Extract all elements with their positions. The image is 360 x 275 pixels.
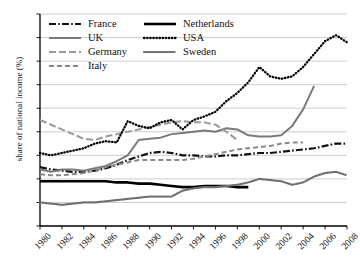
legend-item-germany[interactable]: Germany [48, 47, 143, 58]
legend-item-italy[interactable]: Italy [48, 61, 143, 72]
legend-label: Italy [88, 61, 107, 72]
legend-row: Italy [48, 59, 238, 73]
legend-swatch [143, 19, 177, 29]
legend-row: FranceNetherlands [48, 17, 238, 31]
legend-item-netherlands[interactable]: Netherlands [143, 19, 238, 30]
legend-item-uk[interactable]: UK [48, 33, 143, 44]
legend-label: Sweden [183, 47, 216, 58]
legend-item-usa[interactable]: USA [143, 33, 238, 44]
legend-swatch [143, 47, 177, 57]
y-axis-title: share of national income (%) [14, 24, 24, 194]
legend-swatch [48, 19, 82, 29]
legend-item-sweden[interactable]: Sweden [143, 47, 238, 58]
legend-swatch [48, 61, 82, 71]
legend-label: France [88, 19, 117, 30]
legend-swatch [48, 33, 82, 43]
legend-label: UK [88, 33, 103, 44]
chart-legend: FranceNetherlandsUKUSAGermanySwedenItaly [48, 17, 238, 73]
legend-row: UKUSA [48, 31, 238, 45]
legend-label: USA [183, 33, 204, 44]
legend-swatch [143, 33, 177, 43]
legend-row: GermanySweden [48, 45, 238, 59]
legend-label: Germany [88, 47, 127, 58]
legend-item-france[interactable]: France [48, 19, 143, 30]
legend-swatch [48, 47, 82, 57]
legend-label: Netherlands [183, 19, 234, 30]
